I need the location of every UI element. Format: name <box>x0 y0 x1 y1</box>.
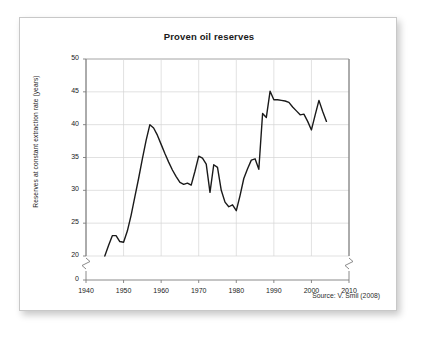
figure-card: Proven oil reserves Reserves at constant… <box>19 17 397 311</box>
data-line-proven-oil-reserves <box>105 91 327 256</box>
source-note: Source: V. Smil (2008) <box>312 292 380 299</box>
y-axis-tick-label: 35 <box>57 153 79 160</box>
y-axis-tick-label: 40 <box>57 120 79 127</box>
x-axis-tick-label: 1990 <box>257 287 291 294</box>
y-axis-tick-label: 25 <box>57 218 79 225</box>
x-axis-tick-label: 1980 <box>219 287 253 294</box>
y-axis-tick-label: 0 <box>57 275 79 282</box>
x-axis-tick-label: 1940 <box>69 287 103 294</box>
x-axis-tick-label: 1950 <box>107 287 141 294</box>
y-axis-tick-label: 20 <box>57 251 79 258</box>
chart-plot-area: Reserves at constant extraction rate (ye… <box>20 18 398 312</box>
y-axis-tick-label: 30 <box>57 185 79 192</box>
x-axis-tick-label: 1960 <box>144 287 178 294</box>
x-axis-tick-label: 1970 <box>182 287 216 294</box>
grid-lines <box>86 59 349 256</box>
y-axis-tick-label: 50 <box>57 54 79 61</box>
y-axis-title: Reserves at constant extraction rate (ye… <box>32 62 39 222</box>
y-axis-tick-label: 45 <box>57 87 79 94</box>
line-chart-svg <box>20 18 398 312</box>
